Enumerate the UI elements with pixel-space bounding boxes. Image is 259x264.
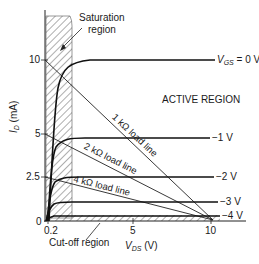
x-tick-label-10: 10 (205, 226, 216, 236)
saturation-label-2: region (88, 25, 116, 35)
y-tick-label-10: 10 (29, 55, 40, 65)
curve-label-minus2: −2 V (216, 172, 237, 182)
active-region-label: ACTIVE REGION (162, 95, 240, 105)
y-tick-label-5: 5 (35, 129, 41, 139)
curve-label-minus3: −3 V (220, 197, 241, 207)
y-tick-label-2-5: 2.5 (26, 172, 40, 182)
y-axis-label: ID (mA) (9, 101, 20, 133)
x-axis-label: VDS (V) (125, 241, 158, 252)
saturation-label-1: Saturation (79, 13, 125, 23)
curve-label-minus4: −4 V (222, 211, 243, 221)
y-tick-label-0: 0 (36, 217, 42, 227)
x-tick-label-0-2: 0.2 (44, 226, 58, 236)
x-tick-label-5: 5 (130, 226, 136, 236)
cutoff-region-label: Cut-off region (49, 238, 109, 248)
curve-label-vgs-0: VGS = 0 V (217, 55, 259, 66)
curve-label-minus1: −1 V (212, 133, 233, 143)
